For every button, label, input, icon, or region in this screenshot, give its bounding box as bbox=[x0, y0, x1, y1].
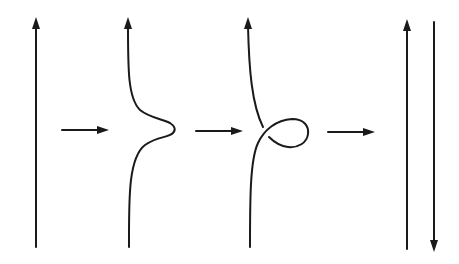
arrowhead-right-icon bbox=[231, 127, 243, 135]
arrowhead-up-icon bbox=[403, 19, 411, 31]
transition-arrow-3 bbox=[328, 128, 375, 136]
arrowhead-down-icon bbox=[430, 240, 438, 252]
deformation-diagram bbox=[0, 0, 459, 264]
arrowhead-up-icon bbox=[124, 17, 132, 29]
antiparallel-pair bbox=[403, 19, 438, 252]
looped-strand bbox=[244, 17, 308, 247]
arrowhead-right-icon bbox=[97, 126, 109, 134]
transition-arrow-2 bbox=[196, 127, 243, 135]
arrowhead-up-icon bbox=[244, 17, 252, 29]
arrowhead-right-icon bbox=[363, 128, 375, 136]
straight-strand bbox=[32, 17, 40, 247]
transition-arrow-1 bbox=[62, 126, 109, 134]
arrowhead-up-icon bbox=[32, 17, 40, 29]
bumped-strand bbox=[124, 17, 175, 247]
